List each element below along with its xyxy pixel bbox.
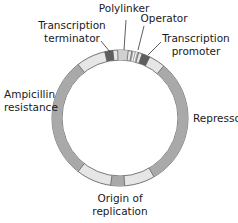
transcription-promoter-segment: [141, 58, 148, 61]
terminator-leader: [101, 41, 110, 52]
origin-label-line2: replication: [92, 205, 147, 217]
plasmid-diagram: Polylinker Operator Transcription termin…: [0, 0, 238, 223]
operator-label: Operator: [141, 12, 189, 24]
polylinker-leader: [124, 20, 126, 50]
ampicillin-label-line1: Ampicillin: [4, 88, 55, 100]
operator-leader: [138, 26, 144, 50]
origin-of-replication-segment: [111, 180, 124, 181]
transcription-terminator-segment: [106, 55, 114, 56]
promoter-label-line1: Transcription: [161, 32, 230, 44]
terminator-label-line2: terminator: [44, 32, 100, 44]
origin-label-line1: Origin of: [97, 192, 142, 204]
ampicillin-label-line2: resistance: [4, 101, 58, 113]
ampicillin-resistance-segment: [57, 68, 81, 167]
promoter-label-line2: promoter: [172, 45, 221, 57]
operator-segment: [131, 56, 137, 57]
leader-lines: [101, 20, 161, 55]
repressor-segment: [152, 70, 184, 173]
promoter-leader: [148, 42, 161, 55]
terminator-label-line1: Transcription: [37, 19, 106, 31]
plasmid-segments: [57, 50, 183, 186]
repressor-label: Repressor: [193, 112, 238, 124]
